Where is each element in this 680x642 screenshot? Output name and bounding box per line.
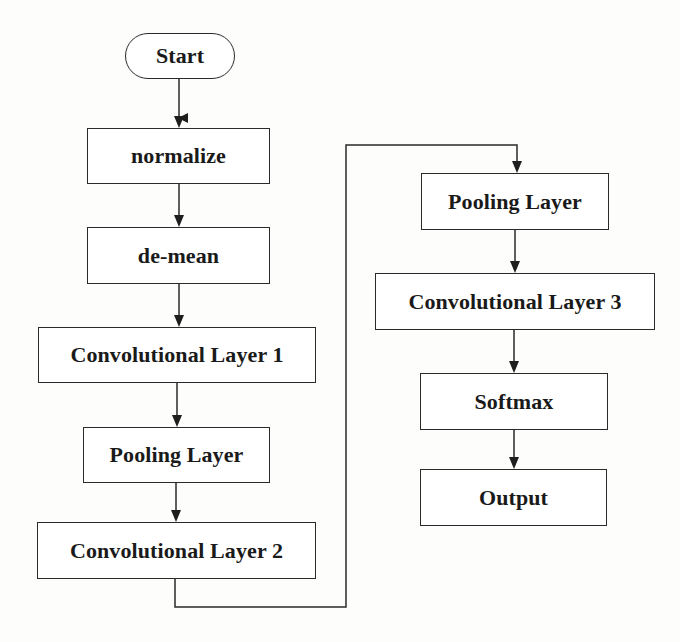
- arrowhead-icon: [509, 457, 519, 469]
- softmax-label: Softmax: [475, 389, 554, 415]
- start-node: Start: [125, 33, 235, 79]
- pooling-layer-1-node: Pooling Layer: [83, 427, 270, 483]
- pooling-layer-1-label: Pooling Layer: [110, 442, 244, 468]
- normalize-label: normalize: [131, 143, 226, 169]
- de-mean-label: de-mean: [138, 243, 219, 269]
- arrowhead-icon: [174, 215, 184, 227]
- arrowhead-icon: [510, 261, 520, 273]
- convolutional-layer-1-node: Convolutional Layer 1: [38, 327, 316, 383]
- arrowhead-icon: [512, 161, 522, 173]
- softmax-node: Softmax: [420, 373, 608, 430]
- arrowhead-icon: [172, 415, 182, 427]
- output-label: Output: [479, 485, 548, 511]
- arrowhead-icon: [174, 315, 184, 327]
- arrowhead-icon: [171, 510, 181, 522]
- convolutional-layer-3-node: Convolutional Layer 3: [375, 273, 655, 330]
- arrowhead-icon: [509, 361, 519, 373]
- flowchart-canvas: Start normalize de-mean Convolutional La…: [0, 0, 680, 642]
- pooling-layer-2-label: Pooling Layer: [448, 189, 582, 215]
- start-label: Start: [156, 43, 204, 69]
- normalize-node: normalize: [87, 128, 270, 184]
- de-mean-node: de-mean: [87, 227, 270, 284]
- convolutional-layer-2-node: Convolutional Layer 2: [37, 522, 316, 579]
- pooling-layer-2-node: Pooling Layer: [421, 173, 609, 230]
- convolutional-layer-2-label: Convolutional Layer 2: [70, 538, 283, 564]
- output-node: Output: [420, 469, 607, 526]
- convolutional-layer-3-label: Convolutional Layer 3: [408, 289, 621, 315]
- arrowhead-icon: [174, 116, 184, 128]
- convolutional-layer-1-label: Convolutional Layer 1: [70, 342, 283, 368]
